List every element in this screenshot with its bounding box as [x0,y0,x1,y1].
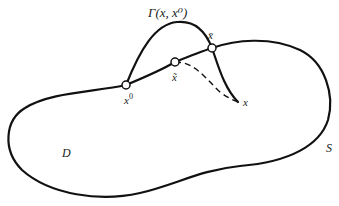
point-x0-label: x0 [123,92,133,106]
region-d-label: D [61,146,71,160]
point-x-tilde-label: x̃ [171,71,178,83]
dashed-path [175,62,238,102]
point-x-label: x [242,96,248,108]
gamma-curve [126,22,238,102]
boundary-s [8,41,330,197]
point-x-tilde-node [171,58,179,66]
point-x0-node [122,81,130,89]
diagram-canvas: Γ(x, x⁰) x̄ x̃ x0 x D S [0,0,339,206]
point-x-bar-node [208,44,216,52]
point-x0-superscript: 0 [129,92,133,101]
boundary-s-label: S [326,141,332,155]
gamma-label: Γ(x, x⁰) [147,5,187,20]
point-x-bar-label: x̄ [207,29,213,41]
